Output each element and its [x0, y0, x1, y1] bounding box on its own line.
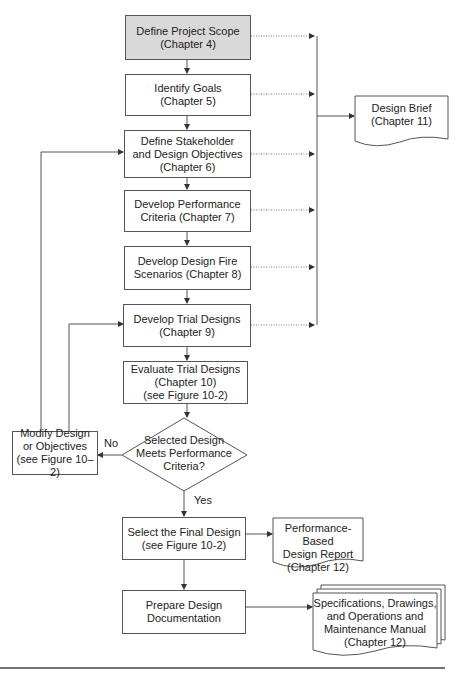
- doc-title: Design Brief: [355, 102, 448, 115]
- step-label: Identify Goals: [154, 82, 221, 95]
- step-select-final-design: Select the Final Design (see Figure 10-2…: [122, 517, 246, 560]
- doc-title: Performance-Based: [273, 522, 363, 548]
- step-label-2: and Design Objectives: [132, 148, 242, 161]
- step-label: Develop Performance: [134, 198, 240, 211]
- step-reference: (see Figure 10-2): [143, 389, 227, 402]
- doc-title-2: and Operations and: [313, 610, 437, 623]
- doc-chapter: (Chapter 12): [273, 561, 363, 574]
- step-label: Modify Design: [20, 427, 90, 440]
- step-label: Evaluate Trial Designs: [131, 363, 240, 376]
- doc-chapter: (Chapter 11): [355, 115, 448, 128]
- doc-title-2: Design Report: [273, 548, 363, 561]
- step-chapter: (Chapter 9): [159, 326, 215, 339]
- decision-line-3: Criteria?: [128, 460, 240, 473]
- no-label: No: [104, 437, 118, 449]
- step-trial-designs: Develop Trial Designs (Chapter 9): [123, 304, 251, 347]
- doc-design-report: Performance-Based Design Report (Chapter…: [273, 522, 363, 574]
- step-define-project-scope: Define Project Scope (Chapter 4): [125, 15, 251, 60]
- step-evaluate-trial-designs: Evaluate Trial Designs (Chapter 10) (see…: [123, 361, 248, 404]
- decision-line-2: Meets Performance: [128, 447, 240, 460]
- doc-specifications-manual: Specifications, Drawings, and Operations…: [313, 597, 437, 649]
- step-reference: (see Figure 10-2): [142, 539, 226, 552]
- step-label: Define Stakeholder: [141, 135, 235, 148]
- step-define-objectives: Define Stakeholder and Design Objectives…: [124, 130, 251, 178]
- decision-line-1: Selected Design: [128, 434, 240, 447]
- doc-title-3: Maintenance Manual: [313, 623, 437, 636]
- step-prepare-documentation: Prepare Design Documentation: [122, 590, 246, 634]
- step-label: Define Project Scope: [136, 25, 239, 38]
- step-label: Develop Trial Designs: [134, 313, 241, 326]
- step-performance-criteria: Develop Performance Criteria (Chapter 7): [124, 190, 251, 232]
- step-label-2: Documentation: [147, 612, 221, 625]
- decision-meets-criteria: Selected Design Meets Performance Criter…: [128, 434, 240, 473]
- step-chapter: Scenarios (Chapter 8): [134, 268, 242, 281]
- step-identify-goals: Identify Goals (Chapter 5): [125, 74, 251, 116]
- step-modify-design: Modify Design or Objectives (see Figure …: [12, 431, 98, 475]
- doc-chapter: (Chapter 12): [313, 636, 437, 649]
- step-label: Prepare Design: [146, 599, 222, 612]
- step-chapter: (Chapter 6): [160, 161, 216, 174]
- doc-design-brief: Design Brief (Chapter 11): [355, 102, 448, 128]
- step-chapter: (Chapter 10): [155, 376, 217, 389]
- doc-title: Specifications, Drawings,: [313, 597, 437, 610]
- step-label: Select the Final Design: [127, 526, 240, 539]
- step-chapter: (Chapter 4): [160, 38, 216, 51]
- step-label: Develop Design Fire: [138, 255, 238, 268]
- step-reference: (see Figure 10–2): [13, 453, 97, 479]
- step-chapter: Criteria (Chapter 7): [140, 211, 234, 224]
- step-fire-scenarios: Develop Design Fire Scenarios (Chapter 8…: [124, 246, 251, 290]
- step-label-2: or Objectives: [23, 440, 87, 453]
- yes-label: Yes: [194, 494, 212, 506]
- step-chapter: (Chapter 5): [160, 95, 216, 108]
